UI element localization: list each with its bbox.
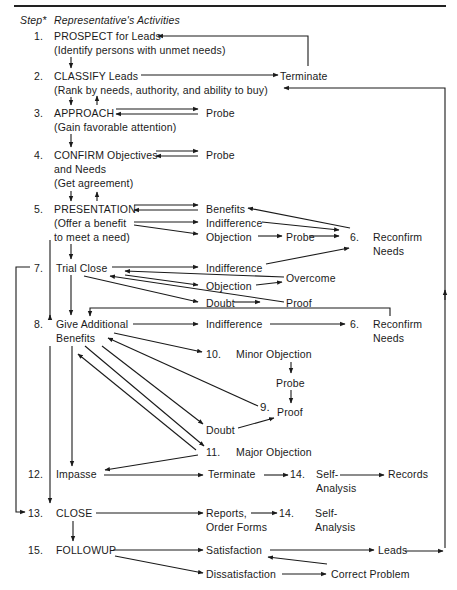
flow-connectors bbox=[0, 0, 457, 590]
